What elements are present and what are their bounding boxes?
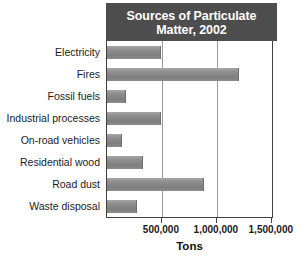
bar-on-road-vehicles <box>107 134 122 147</box>
bar-fossil-fuels <box>107 90 126 103</box>
category-axis-labels: ElectricityFiresFossil fuelsIndustrial p… <box>0 41 103 218</box>
category-label-road-dust: Road dust <box>0 174 103 196</box>
chart-title-line-1: Sources of Particulate <box>127 9 257 23</box>
plot-area <box>106 41 273 218</box>
bar-electricity <box>107 46 161 59</box>
chart-title-line-2: Matter, 2002 <box>127 23 257 37</box>
x-tick-label-1000000: 1,000,000 <box>194 224 239 235</box>
x-tick-label-500000: 500,000 <box>143 224 179 235</box>
bar-row <box>107 107 161 129</box>
category-label-residential-wood: Residential wood <box>0 152 103 174</box>
bar-series <box>107 41 272 217</box>
category-label-waste-disposal: Waste disposal <box>0 196 103 218</box>
bar-row <box>107 41 161 63</box>
x-tick-1500000 <box>271 218 272 223</box>
bar-row <box>107 63 239 85</box>
x-axis-tick-labels: 500,0001,000,0001,500,000 <box>0 224 306 238</box>
bar-row <box>107 130 122 152</box>
x-tick-500000 <box>161 218 162 223</box>
chart-figure: Sources of Particulate Matter, 2002 Elec… <box>0 0 306 262</box>
bar-fires <box>107 68 239 81</box>
chart-title: Sources of Particulate Matter, 2002 <box>127 9 257 37</box>
category-label-electricity: Electricity <box>0 41 103 63</box>
bar-residential-wood <box>107 156 143 169</box>
x-tick-1000000 <box>216 218 217 223</box>
category-label-industrial-processes: Industrial processes <box>0 107 103 129</box>
bar-road-dust <box>107 178 204 191</box>
x-axis-title: Tons <box>106 240 273 252</box>
bar-row <box>107 174 204 196</box>
bar-waste-disposal <box>107 200 137 213</box>
bar-row <box>107 85 126 107</box>
bar-row <box>107 196 137 218</box>
bar-row <box>107 152 143 174</box>
category-label-fossil-fuels: Fossil fuels <box>0 85 103 107</box>
bar-industrial-processes <box>107 112 161 125</box>
x-tick-label-1500000: 1,500,000 <box>249 224 294 235</box>
category-label-on-road-vehicles: On-road vehicles <box>0 130 103 152</box>
category-label-fires: Fires <box>0 63 103 85</box>
chart-title-banner: Sources of Particulate Matter, 2002 <box>106 3 277 41</box>
